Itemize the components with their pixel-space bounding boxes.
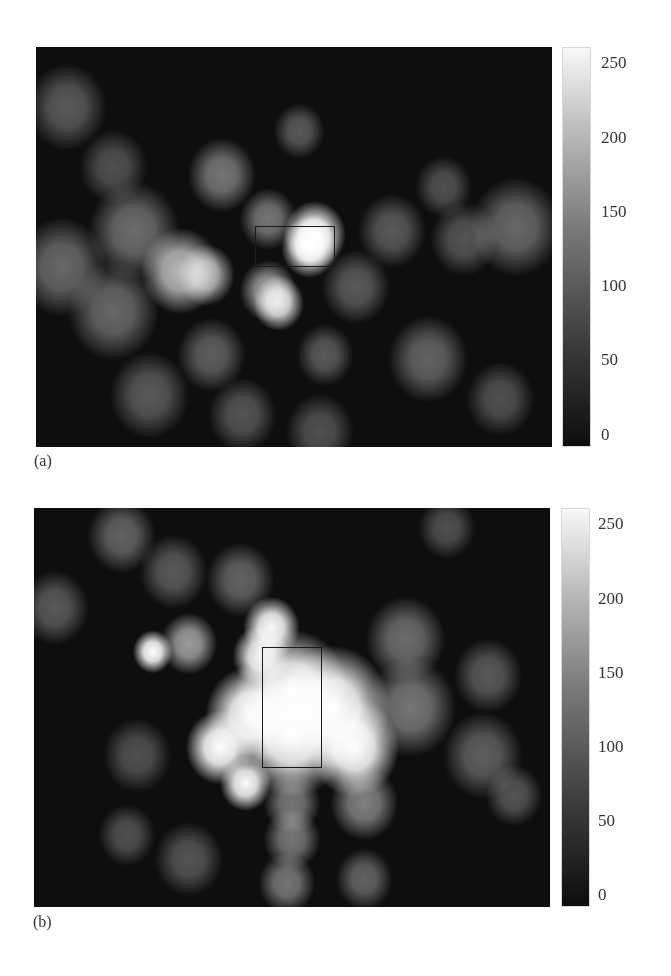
tick-label: 250	[601, 54, 627, 71]
tick-label: 0	[601, 426, 610, 443]
colorbar-a	[562, 47, 591, 447]
tick-label: 50	[598, 812, 615, 829]
roi-rectangle-b	[262, 647, 322, 768]
tick-label: 150	[601, 203, 627, 220]
tick-label: 100	[598, 738, 624, 755]
tick-label: 150	[598, 664, 624, 681]
colorbar-b	[561, 508, 590, 907]
roi-rectangle-a	[255, 226, 335, 267]
tick-label: 250	[598, 515, 624, 532]
tick-label: 100	[601, 277, 627, 294]
panel-label-a: (a)	[34, 452, 52, 470]
tick-label: 200	[598, 590, 624, 607]
panel-label-b: (b)	[33, 913, 52, 931]
tick-label: 200	[601, 129, 627, 146]
tick-label: 50	[601, 351, 618, 368]
heatmap-b	[34, 508, 550, 907]
heatmap-a	[36, 47, 552, 447]
tick-label: 0	[598, 886, 607, 903]
